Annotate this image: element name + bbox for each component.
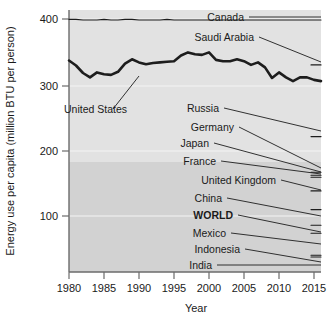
x-tick-label-2015: 2015 — [302, 282, 326, 294]
y-tick-label-100: 100 — [40, 210, 58, 222]
series-label-united-states: United States — [64, 103, 127, 115]
x-tick-label-1990: 1990 — [127, 282, 151, 294]
x-tick-label-2010: 2010 — [267, 282, 291, 294]
y-tick-label-200: 200 — [40, 145, 58, 157]
y-axis-title: Energy use per capita (million BTU per p… — [4, 26, 16, 255]
series-label-saudi-arabia: Saudi Arabia — [194, 31, 254, 43]
series-label-mexico: Mexico — [193, 227, 226, 239]
energy-use-per-capita-chart: 400 300 200 100 Energy use per capita (m… — [0, 0, 332, 320]
series-label-world: WORLD — [193, 209, 233, 221]
y-tick-label-400: 400 — [40, 13, 58, 25]
series-label-france: France — [183, 155, 216, 167]
series-label-indonesia: Indonesia — [194, 243, 240, 255]
x-tick-label-2005: 2005 — [232, 282, 256, 294]
series-label-canada: Canada — [207, 11, 244, 23]
series-label-germany: Germany — [191, 121, 235, 133]
y-axis: 400 300 200 100 Energy use per capita (m… — [4, 10, 69, 272]
y-tick-label-300: 300 — [40, 80, 58, 92]
series-label-russia: Russia — [187, 102, 219, 114]
x-tick-label-1995: 1995 — [162, 282, 186, 294]
x-axis-title: Year — [185, 302, 208, 314]
series-label-united-kingdom: United Kingdom — [201, 174, 276, 186]
x-tick-label-2000: 2000 — [197, 282, 221, 294]
series-label-india: India — [189, 259, 212, 271]
series-label-japan: Japan — [180, 137, 209, 149]
x-tick-label-1985: 1985 — [92, 282, 116, 294]
x-tick-label-1980: 1980 — [57, 282, 81, 294]
x-axis: 1980 1985 1990 1995 2000 2005 2010 2015 … — [57, 272, 326, 314]
series-label-china: China — [195, 192, 223, 204]
series-line-canada — [69, 19, 321, 20]
